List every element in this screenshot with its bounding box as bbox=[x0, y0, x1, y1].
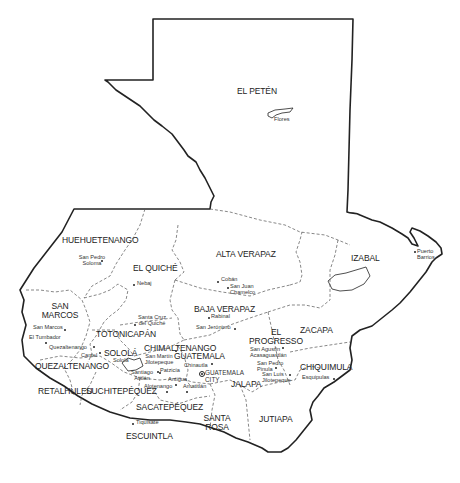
city-label-san-martin-jilotepeque: San Martín Jilotepeque bbox=[142, 354, 176, 366]
city-label-el-tumbador: El Tumbador bbox=[29, 335, 61, 341]
dept-label-line: ROSA bbox=[199, 423, 235, 432]
lake-izabal bbox=[328, 267, 370, 291]
dept-label-line: MARCOS bbox=[40, 311, 80, 320]
city-label-line: Soloma bbox=[74, 261, 110, 267]
city-label-nebaj: Nebaj bbox=[137, 281, 152, 287]
city-label-san-luis-jilotepeque: San Luis Jilotepeque bbox=[262, 372, 291, 384]
city-label-san-agustin-acasaguastlan: San Agustín Acasaguastlán bbox=[250, 347, 287, 359]
city-label-chinautla: Chinautla bbox=[184, 363, 208, 369]
dept-label-retalhuleu: RETALHULEU bbox=[38, 387, 93, 396]
dept-label-guatemala: GUATEMALA bbox=[174, 352, 225, 361]
dept-label-el-quiche: EL QUICHÉ bbox=[133, 264, 178, 273]
city-label-solola: Sololá bbox=[113, 358, 129, 364]
dept-label-line: PROGRESSO bbox=[246, 337, 306, 346]
city-label-santiago-atitlan: Santiago Atitlán bbox=[127, 370, 157, 382]
city-label-alotenango: Alotenango bbox=[144, 384, 172, 390]
city-label-guatemala-city: GUATEMALA CITY bbox=[205, 370, 244, 383]
dept-label-alta-verapaz: ALTA VERAPAZ bbox=[216, 250, 276, 259]
city-label-rabinal: Rabinal bbox=[211, 314, 230, 320]
city-label-san-jeronimo: San Jerónimo bbox=[196, 325, 231, 331]
dept-label-huehuetenango: HUEHUETENANGO bbox=[62, 236, 139, 245]
city-label-antigua: Antigua bbox=[168, 377, 187, 383]
dept-label-el-progresso: EL PROGRESSO bbox=[246, 328, 306, 346]
city-label-puerto-barrios: Puerto Barrios bbox=[417, 249, 435, 261]
city-label-coban: Cobán bbox=[221, 277, 237, 283]
city-label-san-juan-chamelco: San Juan Chamelco bbox=[230, 284, 255, 296]
dept-label-totonicapan: TOTONICAPÁN bbox=[96, 330, 156, 339]
city-label-san-pedro-soloma: San Pedro Soloma bbox=[74, 255, 110, 267]
dept-label-zacapa: ZACAPA bbox=[300, 326, 333, 335]
dept-label-quezaltenango: QUEZALTENANGO bbox=[35, 362, 109, 371]
city-label-san-marcos: San Marcos bbox=[33, 325, 63, 331]
city-label-santa-cruz-del-quiche: Santa Cruz del Quiché bbox=[134, 315, 170, 327]
city-label-cantel: Cantel bbox=[81, 353, 97, 359]
city-label-flores: Flores bbox=[274, 117, 290, 123]
city-label-line: Barrios bbox=[417, 255, 435, 261]
dept-label-escuintla: ESCUINTLA bbox=[126, 432, 173, 441]
dept-label-sacatepequez: SACATEPÉQUEZ bbox=[136, 403, 203, 412]
city-label-tiquisate: Tiquisate bbox=[136, 420, 159, 426]
city-label-patzicia: Patzicía bbox=[160, 368, 180, 374]
dept-label-jutiapa: JUTIAPA bbox=[259, 415, 293, 424]
city-label-amatitlan: Amatitlán bbox=[183, 384, 206, 390]
dept-label-santa-rosa: SANTA ROSA bbox=[199, 414, 235, 432]
dept-label-el-peten: EL PETÉN bbox=[237, 87, 277, 96]
city-label-esquipulas: Esquipulas bbox=[302, 375, 329, 381]
dept-label-chiquimula: CHIQUIMULA bbox=[300, 363, 352, 372]
city-label-line: Atitlán bbox=[127, 376, 157, 382]
city-label-line: Jilotepeque bbox=[142, 360, 176, 366]
city-label-line: Acasaguastlán bbox=[250, 353, 287, 359]
city-label-line: Jilotepeque bbox=[262, 378, 291, 384]
city-label-quezaltenango: Quezaltenango bbox=[49, 345, 87, 351]
city-label-line: Chamelco bbox=[230, 290, 255, 296]
dept-label-san-marcos: SAN MARCOS bbox=[40, 302, 80, 320]
city-label-line: CITY bbox=[205, 377, 244, 384]
dept-label-izabal: IZABAL bbox=[351, 254, 380, 263]
city-label-line: del Quiché bbox=[134, 321, 170, 327]
